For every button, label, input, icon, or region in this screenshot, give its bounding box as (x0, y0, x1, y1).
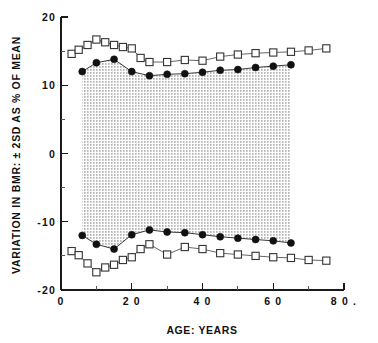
open-square-marker (119, 256, 126, 263)
x-tick-label: 0 (57, 295, 64, 307)
open-square-marker (84, 260, 91, 267)
open-square-marker (305, 256, 312, 263)
open-square-marker (84, 41, 91, 48)
open-square-marker (75, 252, 82, 259)
open-square-marker (146, 241, 153, 248)
open-square-marker (137, 54, 144, 61)
filled-circle-marker (93, 241, 100, 248)
filled-circle-marker (252, 64, 259, 71)
open-square-marker (68, 247, 75, 254)
open-square-marker (68, 50, 75, 57)
open-square-marker (93, 269, 100, 276)
open-square-marker (137, 245, 144, 252)
x-axis-ticks: 02 04 06 08 0 . (57, 283, 357, 307)
filled-circle-marker (111, 56, 118, 63)
x-axis-title-group: AGE: YEARS (166, 324, 237, 336)
filled-circle-marker (217, 233, 224, 240)
open-square-marker (75, 46, 82, 53)
open-square-marker (110, 41, 117, 48)
open-square-marker (252, 252, 259, 259)
x-tick-label: 4 0 (193, 295, 211, 307)
figure-container: 20100-10-20 02 04 06 08 0 . AGE: YEARS V… (0, 0, 378, 343)
filled-circle-marker (270, 237, 277, 244)
filled-circle-marker (79, 232, 86, 239)
open-square-marker (287, 254, 294, 261)
open-square-marker (181, 56, 188, 63)
open-square-marker (234, 251, 241, 258)
filled-circle-marker (234, 235, 241, 242)
filled-circle-marker (181, 70, 188, 77)
y-axis-title: VARIATION IN BMR: ± 2SD AS % OF MEAN (10, 36, 22, 274)
filled-circle-marker (199, 231, 206, 238)
y-tick-label: 20 (42, 11, 56, 23)
open-square-marker (199, 57, 206, 64)
filled-circle-marker (252, 236, 259, 243)
open-square-marker (128, 254, 135, 261)
y-tick-label: 0 (49, 148, 56, 160)
stippled-band-polygon (82, 59, 291, 249)
filled-circle-marker (79, 68, 86, 75)
open-square-marker (323, 257, 330, 264)
open-square-marker (119, 43, 126, 50)
filled-circle-marker (164, 228, 171, 235)
shaded-band (82, 59, 291, 249)
caption-sliver (10, 336, 368, 343)
bmr-age-plot: 20100-10-20 02 04 06 08 0 . AGE: YEARS V… (0, 0, 378, 343)
filled-circle-marker (128, 68, 135, 75)
open-square-marker (252, 50, 259, 57)
open-square-marker (305, 47, 312, 54)
y-axis-ticks: 20100-10-20 (37, 11, 68, 296)
open-square-marker (128, 45, 135, 52)
open-square-marker (323, 45, 330, 52)
open-square-marker (164, 251, 171, 258)
filled-circle-marker (111, 246, 118, 253)
y-tick-label: 10 (42, 79, 56, 91)
x-axis-title: AGE: YEARS (166, 324, 237, 336)
filled-circle-marker (270, 63, 277, 70)
filled-circle-marker (199, 69, 206, 76)
open-square-marker (102, 39, 109, 46)
filled-circle-marker (181, 229, 188, 236)
filled-circle-marker (287, 61, 294, 68)
open-square-marker (217, 53, 224, 60)
filled-circle-marker (287, 239, 294, 246)
y-tick-label: -10 (37, 216, 56, 228)
filled-circle-marker (128, 231, 135, 238)
open-square-marker (102, 264, 109, 271)
filled-circle-marker (234, 66, 241, 73)
open-square-marker (234, 51, 241, 58)
filled-circle-marker (217, 67, 224, 74)
x-tick-label: 8 0 . (331, 295, 357, 307)
open-square-marker (217, 250, 224, 257)
y-tick-label: -20 (37, 284, 56, 296)
open-square-marker (146, 58, 153, 65)
open-square-marker (93, 36, 100, 43)
y-axis-title-group: VARIATION IN BMR: ± 2SD AS % OF MEAN (10, 36, 22, 274)
open-square-marker (110, 261, 117, 268)
open-square-marker (270, 49, 277, 56)
open-square-marker (199, 245, 206, 252)
open-square-marker (287, 48, 294, 55)
filled-circle-marker (146, 226, 153, 233)
open-square-marker (270, 254, 277, 261)
x-tick-label: 6 0 (264, 295, 282, 307)
x-tick-label: 2 0 (123, 295, 141, 307)
open-square-marker (164, 58, 171, 65)
filled-circle-marker (164, 71, 171, 78)
filled-circle-marker (93, 59, 100, 66)
filled-circle-marker (146, 72, 153, 79)
open-square-marker (181, 243, 188, 250)
